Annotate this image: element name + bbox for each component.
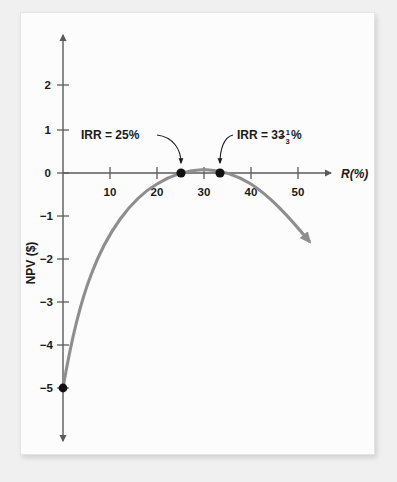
irr-high-leader-line [220,135,233,163]
irr-low-root-marker [176,168,185,177]
irr-high-suffix: % [291,128,302,142]
irr-low-annotation-label: IRR = 25% [81,128,140,142]
data-point-markers [59,168,225,392]
y-tick-label-0: 0 [45,167,51,179]
x-axis-title: R(%) [341,167,368,181]
figure-card: 2 1 0 −1 −2 −3 −4 −5 NPV ($) 10 20 30 40 [20,12,375,455]
x-tick-label-10: 10 [104,186,117,198]
npv-profile-chart: 2 1 0 −1 −2 −3 −4 −5 NPV ($) 10 20 30 40 [21,13,374,454]
x-tick-label-50: 50 [292,186,305,198]
irr-high-root-marker [215,168,224,177]
y-axis-group: 2 1 0 −1 −2 −3 −4 −5 NPV ($) [24,35,69,441]
y-tick-label-1: 1 [45,124,52,136]
y-tick-label-neg4: −4 [40,339,54,351]
y-axis-title: NPV ($) [24,242,38,285]
x-tick-label-30: 30 [198,186,211,198]
irr-high-prefix: IRR = 33 [237,128,285,142]
irr-high-annotation: IRR = 3313% [220,128,302,164]
y-tick-label-neg3: −3 [40,296,53,308]
irr-low-annotation: IRR = 25% [81,128,181,163]
irr-low-leader-line [157,135,181,163]
y-tick-label-neg5: −5 [40,382,54,394]
y-tick-label-neg2: −2 [40,253,53,265]
irr-high-annotation-label: IRR = 3313% [237,128,302,146]
irr-high-fraction-denominator: 3 [285,137,289,146]
irr-high-fraction-numerator: 1 [286,128,290,137]
npv-curve-path [63,170,309,389]
y-tick-label-neg1: −1 [40,210,54,222]
origin-npv-marker [59,384,68,393]
y-tick-label-2: 2 [45,79,51,91]
npv-curve-group [63,170,309,389]
